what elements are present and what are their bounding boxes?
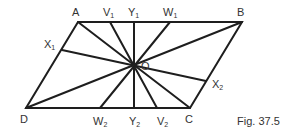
label-c: C: [185, 113, 193, 125]
label-x2: X2: [212, 78, 223, 91]
label-v2: V2: [157, 115, 168, 128]
label-o: O: [141, 60, 150, 72]
label-v1: V1: [103, 6, 114, 19]
label-x1: X1: [44, 38, 55, 51]
label-w1: W1: [163, 6, 177, 19]
label-a: A: [72, 6, 80, 18]
parallelogram-diagram: A B C D O V1 Y1 W1 X1 W2 Y2 V2 X2 Fig. 3…: [0, 0, 297, 137]
label-d: D: [20, 113, 28, 125]
center-point-o: [132, 63, 136, 67]
label-y1: Y1: [128, 6, 139, 19]
label-w2: W2: [93, 115, 107, 128]
label-b: B: [237, 6, 244, 18]
figure-37-5: A B C D O V1 Y1 W1 X1 W2 Y2 V2 X2 Fig. 3…: [0, 0, 297, 137]
figure-caption: Fig. 37.5: [237, 115, 280, 127]
label-y2: Y2: [129, 115, 140, 128]
